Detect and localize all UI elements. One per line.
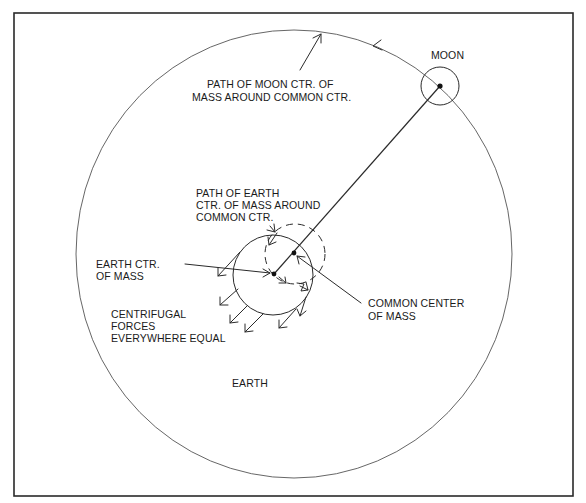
earth-center-label-line2: OF MASS	[96, 270, 144, 282]
moon-path-pointer-arrow-icon	[300, 34, 321, 70]
diagram-canvas: MOON PATH OF MOON CTR. OF MASS AROUND CO…	[0, 0, 586, 503]
common-center-label-line1: COMMON CENTER	[368, 297, 465, 309]
centrifugal-label-line3: EVERYWHERE EQUAL	[111, 332, 226, 344]
earth-path-label-line3: COMMON CTR.	[196, 211, 274, 223]
moon-center-dot	[437, 83, 442, 88]
centrifugal-arrow-icon	[218, 252, 240, 276]
centrifugal-arrow-icon	[230, 306, 247, 323]
dashed-path-arrow-icon	[297, 282, 308, 291]
earth-center-label-line1: EARTH CTR.	[96, 258, 160, 270]
common-center-label-line2: OF MASS	[368, 310, 416, 322]
earth-moon-diagram: MOON PATH OF MOON CTR. OF MASS AROUND CO…	[0, 0, 586, 503]
moon-path-label-line1: PATH OF MOON CTR. OF	[207, 78, 333, 90]
earth-center-dot	[272, 272, 277, 277]
earth-moon-axis-line	[274, 86, 440, 274]
centrifugal-arrow-icon	[245, 314, 263, 332]
earth-label: EARTH	[232, 377, 268, 389]
earth-path-label-line2: CTR. OF MASS AROUND	[196, 199, 321, 211]
moon-label: MOON	[431, 49, 464, 61]
common-center-dot	[292, 251, 297, 256]
centrifugal-label-line2: FORCES	[111, 320, 155, 332]
centrifugal-label-line1: CENTRIFUGAL	[111, 308, 186, 320]
moon-path-label-line2: MASS AROUND COMMON CTR.	[192, 91, 351, 103]
earth-path-label-line1: PATH OF EARTH	[196, 187, 280, 199]
centrifugal-arrow-icon	[220, 289, 238, 305]
earth-path-pointer-arrow-icon	[267, 224, 275, 232]
